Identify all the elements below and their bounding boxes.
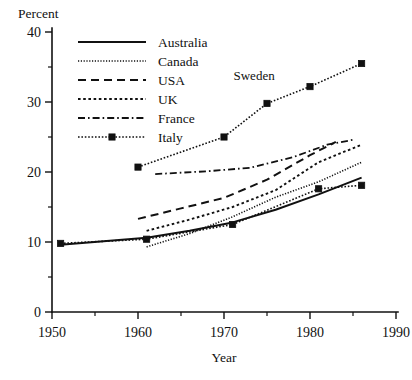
legend-label-usa: USA — [158, 73, 185, 88]
series-marker-sweden — [359, 60, 365, 66]
x-tick-label: 1980 — [296, 325, 324, 340]
legend-label-uk: UK — [158, 92, 178, 107]
series-line-france — [155, 140, 353, 174]
legend-label-australia: Australia — [158, 35, 208, 50]
series-marker-sweden — [221, 134, 227, 140]
series-marker-italy — [144, 236, 150, 242]
series-marker-sweden — [307, 84, 313, 90]
legend-label-canada: Canada — [158, 54, 198, 69]
x-axis-title: Year — [212, 350, 237, 365]
y-tick-label: 10 — [27, 235, 41, 250]
series-line-canada — [147, 162, 362, 247]
y-tick-label: 0 — [34, 305, 41, 320]
x-tick-label: 1990 — [382, 325, 410, 340]
x-tick-label: 1950 — [38, 325, 66, 340]
series-marker-italy — [58, 240, 64, 246]
series-marker-italy — [359, 182, 365, 188]
x-tick-label: 1960 — [124, 325, 152, 340]
chart-figure: Percent01020304019501960197019801990Year… — [0, 0, 412, 380]
x-tick-label: 1970 — [210, 325, 238, 340]
series-line-usa — [138, 142, 336, 219]
y-tick-label: 20 — [27, 165, 41, 180]
series-annotation-sweden: Sweden — [234, 68, 276, 83]
y-tick-label: 30 — [27, 95, 41, 110]
legend-marker-italy — [109, 134, 115, 140]
series-marker-sweden — [135, 164, 141, 170]
series-line-italy — [61, 185, 362, 243]
legend-label-france: France — [158, 111, 195, 126]
series-marker-sweden — [264, 100, 270, 106]
y-axis-unit-label: Percent — [18, 6, 59, 21]
series-marker-italy — [316, 186, 322, 192]
series-line-uk — [147, 145, 362, 231]
y-tick-label: 40 — [27, 25, 41, 40]
legend-label-italy: Italy — [158, 130, 183, 145]
line-chart-canvas: Percent01020304019501960197019801990Year… — [0, 0, 412, 380]
series-marker-italy — [230, 221, 236, 227]
